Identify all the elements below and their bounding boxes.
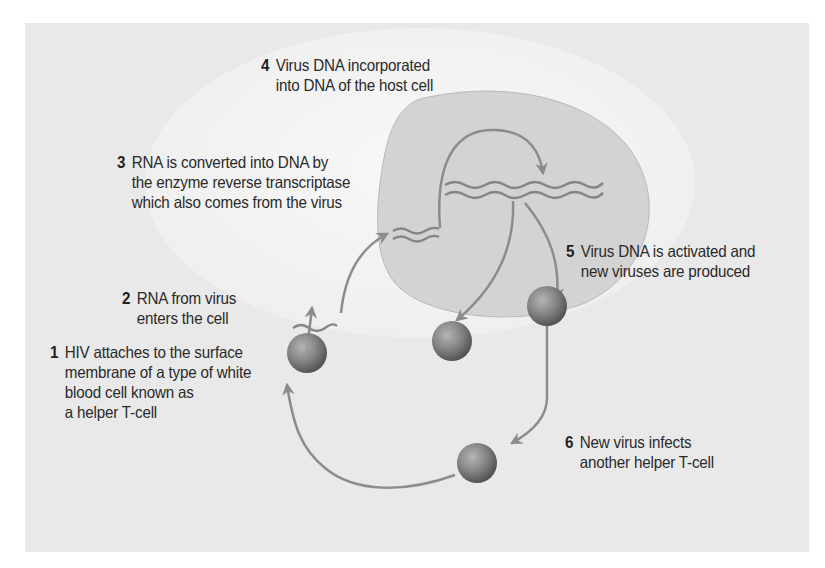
step-number: 6 (565, 432, 580, 452)
step-3-label: 3RNA is converted into DNA by the enzyme… (117, 152, 350, 212)
step-number: 2 (122, 288, 137, 308)
arrow-to-new-infection (512, 326, 547, 443)
diagram-panel: 4Virus DNA incorporated into DNA of the … (25, 23, 809, 552)
virus-particle-new-right (527, 286, 567, 326)
virus-particle-new-left (432, 321, 472, 361)
step-5-label: 5Virus DNA is activated and new viruses … (566, 241, 755, 281)
step-1-label: 1HIV attaches to the surface membrane of… (50, 342, 251, 422)
step-number: 4 (261, 55, 276, 75)
step-number: 3 (117, 152, 132, 172)
step-6-label: 6New virus infects another helper T-cell (565, 432, 714, 472)
virus-particle-infecting (457, 443, 497, 483)
arrow-cycle-return (287, 385, 455, 488)
step-number: 1 (50, 342, 65, 362)
step-number: 5 (566, 241, 581, 261)
step-4-label: 4Virus DNA incorporated into DNA of the … (261, 55, 433, 95)
step-2-label: 2RNA from virus enters the cell (122, 288, 236, 328)
